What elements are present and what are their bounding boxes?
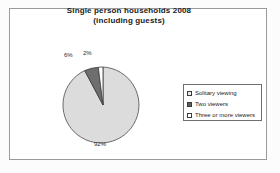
legend-swatch-icon-solitary-viewing: [187, 91, 192, 96]
pie-label-solitary-viewing: 92%: [94, 141, 106, 147]
pie-label-two-viewers: 6%: [64, 52, 73, 58]
legend-item-two-viewers[interactable]: Two viewers: [187, 99, 258, 109]
pie-chart: [56, 58, 150, 152]
pie-label-three-or-more-viewers: 2%: [83, 50, 92, 56]
legend-swatch-icon-three-or-more-viewers: [187, 113, 192, 118]
chart-canvas: Single person households 2008 (including…: [0, 0, 280, 173]
legend: Solitary viewing Two viewers Three or mo…: [183, 84, 262, 121]
legend-label-solitary-viewing: Solitary viewing: [195, 90, 237, 97]
legend-item-three-or-more-viewers[interactable]: Three or more viewers: [187, 110, 258, 120]
pie-svg: [56, 58, 150, 152]
chart-title: Single person households 2008 (including…: [10, 6, 248, 26]
legend-label-three-or-more-viewers: Three or more viewers: [195, 112, 255, 119]
legend-swatch-icon-two-viewers: [187, 102, 192, 107]
chart-title-line1: Single person households 2008: [67, 6, 191, 15]
legend-item-solitary-viewing[interactable]: Solitary viewing: [187, 88, 258, 98]
legend-label-two-viewers: Two viewers: [195, 101, 228, 108]
chart-title-line2: (including guests): [10, 16, 248, 26]
